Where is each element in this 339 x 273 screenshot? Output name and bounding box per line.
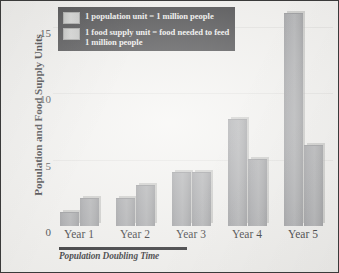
y-tick-label: 15: [40, 27, 51, 39]
legend-population-line-1: 1 population unit = 1 million people: [85, 11, 214, 21]
bar-group: [284, 7, 323, 226]
x-tick-label: Year 5: [288, 228, 318, 240]
bar-population-year-3: [172, 172, 191, 226]
legend-item-population-label: 1 population unit = 1 million people: [85, 11, 214, 21]
y-tick-label: 0: [46, 226, 52, 238]
bar-food-year-5: [304, 145, 323, 226]
doubling-time-label: Population Doubling Time: [59, 251, 187, 261]
x-tick-label: Year 1: [64, 228, 94, 240]
bar-population-year-1: [60, 212, 79, 226]
x-tick-label: Year 2: [120, 228, 150, 240]
x-tick-label: Year 4: [232, 228, 262, 240]
bar-food-year-1: [80, 198, 99, 226]
chart-figure: Population and Food Supply Units 051015 …: [0, 0, 339, 273]
bar-food-year-3: [192, 172, 211, 226]
x-tick-label: Year 3: [176, 228, 206, 240]
bar-population-year-5: [284, 13, 303, 226]
y-axis-tick-labels: 051015: [27, 7, 51, 226]
population-swatch-icon: [63, 12, 80, 24]
bar-food-year-2: [136, 185, 155, 226]
food-supply-swatch-icon: [63, 28, 80, 40]
legend-food-line-1: 1 food supply unit = food needed to: [85, 27, 212, 37]
legend-item-food-supply-label: 1 food supply unit = food needed to feed…: [85, 27, 231, 47]
chart-legend: 1 population unit = 1 million people 1 f…: [58, 7, 235, 51]
doubling-time-annotation: Population Doubling Time: [59, 247, 187, 261]
doubling-time-rule: [59, 247, 187, 250]
bar-population-year-2: [116, 198, 135, 226]
y-tick-label: 5: [46, 160, 52, 172]
x-axis-tick-labels: Year 1Year 2Year 3Year 4Year 5: [53, 228, 333, 246]
legend-item-food-supply: 1 food supply unit = food needed to feed…: [63, 27, 231, 47]
bar-population-year-4: [228, 119, 247, 226]
y-tick-label: 10: [40, 93, 51, 105]
bar-food-year-4: [248, 159, 267, 226]
legend-item-population: 1 population unit = 1 million people: [63, 11, 231, 24]
